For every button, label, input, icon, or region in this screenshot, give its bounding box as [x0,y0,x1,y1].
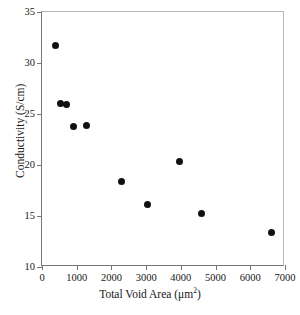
y-axis-tick [37,12,42,13]
x-axis-tick-label: 6000 [240,273,261,284]
x-axis-tick-label: 2000 [101,273,122,284]
x-axis-tick [77,265,78,270]
y-axis-tick [37,165,42,166]
x-axis-tick [216,265,217,270]
y-axis-tick-label: 35 [25,7,36,18]
x-axis-tick-label: 3000 [136,273,157,284]
x-axis-tick [111,265,112,270]
x-axis-tick [250,265,251,270]
data-point [57,100,64,107]
data-point [83,122,90,129]
x-axis-tick-label: 5000 [205,273,226,284]
x-axis-tick [42,265,43,270]
x-axis-tick-label: 0 [39,273,44,284]
data-point [144,201,151,208]
x-axis-tick [285,265,286,270]
y-axis-tick [37,114,42,115]
x-axis-tick-label: 1000 [66,273,87,284]
data-point [70,123,77,130]
plot-area: 101520253035 010002000300040005000600070… [41,11,284,266]
x-axis-tick-label: 4000 [170,273,191,284]
data-point [63,101,70,108]
data-point [198,210,205,217]
x-axis-tick-label: 7000 [275,273,296,284]
x-axis-label: Total Void Area (μm2) [0,289,300,301]
x-axis-tick [181,265,182,270]
y-axis-tick [37,63,42,64]
x-axis-label-text: Total Void Area (μm [99,288,193,300]
data-point [176,158,183,165]
y-axis-label: Conductivity (S/cm) [15,56,27,206]
data-point [268,229,275,236]
scatter-chart-figure: 101520253035 010002000300040005000600070… [0,0,300,315]
data-point [118,178,125,185]
x-axis-tick [146,265,147,270]
y-axis-tick-label: 15 [25,211,36,222]
data-point [52,42,59,49]
y-axis-tick [37,216,42,217]
y-axis-tick-label: 10 [25,262,36,273]
x-axis-label-paren: ) [197,288,201,300]
